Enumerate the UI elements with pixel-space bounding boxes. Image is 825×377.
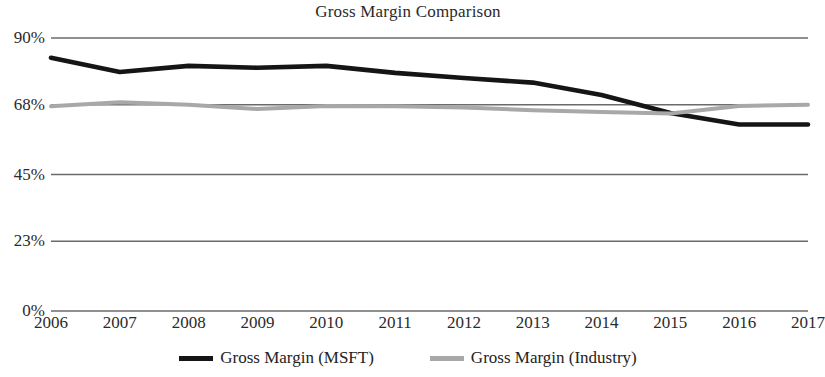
x-tick-label: 2007 — [103, 313, 137, 333]
series-line-msft — [51, 58, 808, 125]
chart-title: Gross Margin Comparison — [0, 2, 816, 22]
legend-entry-msft[interactable]: Gross Margin (MSFT) — [179, 348, 374, 368]
x-tick-label: 2010 — [309, 313, 343, 333]
series-line-industry — [51, 102, 808, 113]
y-axis: 0%23%45%68%90% — [0, 38, 51, 311]
legend-label: Gross Margin (MSFT) — [220, 348, 374, 368]
y-tick-label: 90% — [14, 28, 45, 48]
legend-entry-industry[interactable]: Gross Margin (Industry) — [430, 348, 637, 368]
legend-label: Gross Margin (Industry) — [471, 348, 637, 368]
y-tick-label: 23% — [14, 231, 45, 251]
x-tick-label: 2008 — [172, 313, 206, 333]
x-tick-label: 2016 — [722, 313, 756, 333]
plot-svg — [51, 38, 808, 311]
series-lines — [51, 58, 808, 125]
x-tick-label: 2013 — [516, 313, 550, 333]
plot-area — [51, 38, 808, 311]
x-tick-label: 2015 — [653, 313, 687, 333]
x-tick-label: 2017 — [791, 313, 825, 333]
y-tick-label: 68% — [14, 95, 45, 115]
legend-line-swatch-icon — [430, 356, 464, 361]
chart-legend: Gross Margin (MSFT)Gross Margin (Industr… — [0, 348, 816, 368]
legend-line-swatch-icon — [179, 356, 213, 361]
x-tick-label: 2012 — [447, 313, 481, 333]
x-tick-label: 2014 — [585, 313, 619, 333]
x-tick-label: 2011 — [378, 313, 411, 333]
gridlines — [51, 38, 808, 311]
x-tick-label: 2009 — [240, 313, 274, 333]
x-axis: 2006200720082009201020112012201320142015… — [51, 313, 808, 339]
x-tick-label: 2006 — [34, 313, 68, 333]
y-tick-label: 45% — [14, 165, 45, 185]
